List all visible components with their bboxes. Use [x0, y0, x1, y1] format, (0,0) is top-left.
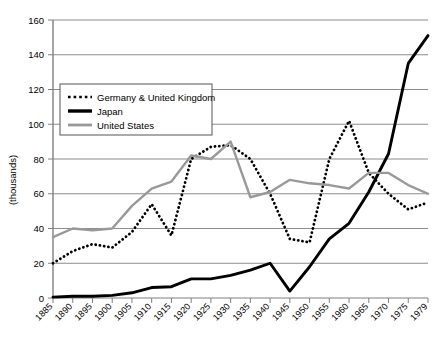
y-axis-title: (thousands): [7, 155, 18, 205]
y-tick-label: 60: [33, 188, 44, 199]
y-tick-label: 100: [28, 119, 44, 130]
chart-canvas: 020406080100120140160 188518901895190019…: [0, 0, 441, 352]
y-tick-label: 160: [28, 15, 44, 26]
chart-background: [0, 0, 441, 352]
y-tick-label: 120: [28, 84, 44, 95]
y-tick-label: 140: [28, 49, 44, 60]
legend-label-japan: Japan: [97, 106, 123, 117]
legend-label-united-states: United States: [97, 120, 154, 131]
y-tick-label: 80: [33, 154, 44, 165]
line-chart: 020406080100120140160 188518901895190019…: [0, 0, 441, 352]
y-tick-label: 40: [33, 223, 44, 234]
legend-label-germany-united-kingdom: Germany & United Kingdom: [97, 92, 215, 103]
chart-legend: Germany & United Kingdom Japan United St…: [60, 84, 215, 135]
y-tick-label: 0: [39, 293, 44, 304]
y-tick-label: 20: [33, 258, 44, 269]
